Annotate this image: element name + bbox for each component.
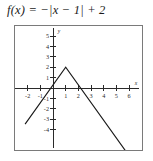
x-tick-label-5: 5 bbox=[115, 92, 118, 99]
x-tick-label--2: -2 bbox=[25, 92, 30, 99]
y-tick-label-1: 1 bbox=[46, 74, 49, 81]
x-tick-label--1: -1 bbox=[38, 92, 43, 99]
y-tick-label--4: -4 bbox=[44, 126, 49, 133]
y-tick-label-5: 5 bbox=[46, 32, 49, 39]
x-axis-label: x bbox=[134, 80, 138, 86]
equation-title: f(x) = −|x − 1| + 2 bbox=[7, 1, 147, 19]
y-tick-label-3: 3 bbox=[46, 53, 49, 60]
y-axis-label: y bbox=[57, 28, 61, 34]
x-tick-label-2: 2 bbox=[77, 92, 80, 99]
y-tick-labels-group: 5 4 3 2 1 -1 -2 -3 -4 bbox=[44, 32, 49, 133]
plot-frame: -2 -1 1 2 3 4 5 6 5 4 3 2 1 -1 -2 -3 -4 bbox=[14, 25, 143, 151]
coordinate-plane: -2 -1 1 2 3 4 5 6 5 4 3 2 1 -1 -2 -3 -4 bbox=[15, 26, 142, 150]
x-tick-label-6: 6 bbox=[127, 92, 130, 99]
function-curve bbox=[25, 67, 130, 150]
figure-container: f(x) = −|x − 1| + 2 bbox=[0, 0, 153, 161]
axes-group bbox=[15, 28, 139, 148]
y-tick-label--1: -1 bbox=[44, 95, 49, 102]
y-tick-label-4: 4 bbox=[46, 43, 49, 50]
y-tick-label-2: 2 bbox=[46, 63, 49, 70]
page-margin bbox=[148, 0, 153, 161]
x-tick-label-4: 4 bbox=[102, 92, 105, 99]
x-tick-label-1: 1 bbox=[64, 92, 67, 99]
x-tick-label-3: 3 bbox=[89, 92, 92, 99]
y-tick-label--3: -3 bbox=[44, 115, 49, 122]
x-tick-labels-group: -2 -1 1 2 3 4 5 6 bbox=[25, 92, 130, 99]
y-tick-label--2: -2 bbox=[44, 105, 49, 112]
